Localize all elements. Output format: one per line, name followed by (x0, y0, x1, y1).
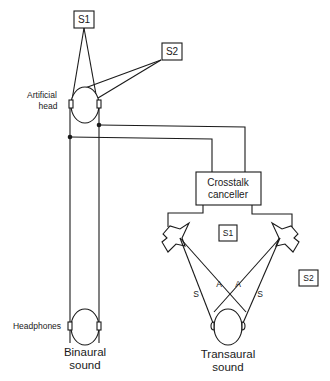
diagram-svg: S1 S2 Artificial head Crosstalk cancelle (0, 0, 330, 381)
binaural-label-line1: Binaural (64, 346, 106, 358)
path-left-cross-label: A (216, 279, 222, 289)
headphones-listener-head (68, 309, 101, 345)
crosstalk-feed-lines (68, 123, 245, 173)
source-s1-top-label: S1 (78, 14, 91, 25)
source-s2-bottom-label: S2 (303, 273, 314, 283)
path-right-cross-label: A (235, 279, 241, 289)
s2-to-head-rays (85, 60, 161, 98)
crosstalk-canceller: Crosstalk canceller (196, 172, 261, 205)
diagram-canvas: S1 S2 Artificial head Crosstalk cancelle (0, 0, 330, 381)
left-loudspeaker-icon (162, 223, 189, 252)
path-left-direct-label: S (193, 289, 199, 299)
source-s1-top: S1 (74, 11, 94, 28)
crosstalk-label-line1: Crosstalk (207, 177, 250, 188)
artificial-head-label-line1: Artificial (27, 90, 57, 100)
path-right-direct-label: S (257, 289, 263, 299)
binaural-label-line2: sound (69, 359, 100, 371)
transaural-listener-head (211, 309, 245, 345)
crosstalk-label-line2: canceller (208, 189, 249, 200)
artificial-head-label-line2: head (39, 101, 58, 111)
source-s2-top-label: S2 (166, 46, 179, 57)
binaural-feed-lines (70, 108, 99, 343)
source-s1-bottom: S1 (219, 225, 237, 241)
source-s1-bottom-label: S1 (223, 228, 234, 238)
headphones-label: Headphones (13, 321, 61, 331)
source-s2-bottom: S2 (299, 270, 318, 286)
transaural-label-line2: sound (212, 361, 243, 373)
source-s2-top: S2 (162, 43, 182, 60)
transaural-label-line1: Transaural (201, 348, 256, 360)
